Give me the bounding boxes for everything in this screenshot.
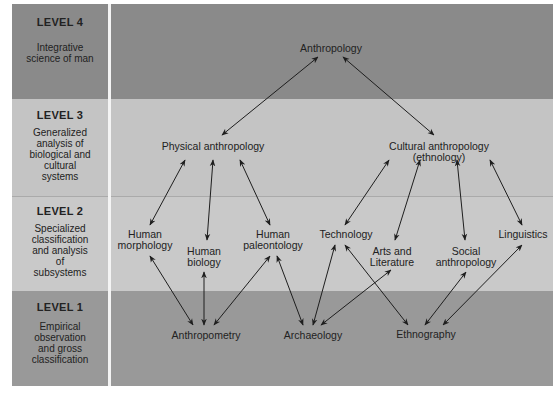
- node-archaeology: Archaeology: [284, 330, 342, 341]
- edge-paleontology-archaeology: [277, 256, 303, 325]
- node-human-morphology: Human morphology: [118, 229, 173, 251]
- node-technology: Technology: [319, 229, 372, 240]
- edge-arts-archaeology: [321, 270, 391, 325]
- node-human-paleontology: Human paleontology: [243, 229, 303, 251]
- node-human-biology: Human biology: [187, 246, 221, 268]
- edge-physical-morphology: [150, 160, 185, 225]
- edge-technology-archaeology: [313, 245, 335, 325]
- edge-physical-biology: [207, 160, 213, 240]
- node-social-anthropology: Social anthropology: [436, 246, 497, 268]
- edge-social-ethnography: [425, 272, 466, 325]
- edge-physical-paleontology: [240, 160, 270, 225]
- node-arts-and-literature: Arts and Literature: [370, 246, 414, 268]
- edge-paleontology-anthropometry: [214, 256, 270, 325]
- node-cultural-anthropology: Cultural anthropology (ethnology): [379, 141, 499, 163]
- node-physical-anthropology: Physical anthropology: [162, 141, 265, 152]
- edge-cultural-arts: [395, 160, 420, 240]
- edge-anthropology-cultural: [343, 57, 434, 135]
- node-linguistics: Linguistics: [498, 229, 547, 240]
- arrows-layer: [0, 0, 559, 394]
- node-anthropology: Anthropology: [300, 43, 362, 54]
- node-anthropometry: Anthropometry: [172, 330, 241, 341]
- edge-cultural-social: [457, 160, 465, 240]
- edge-cultural-linguistics: [490, 160, 522, 225]
- edge-anthropology-physical: [222, 57, 318, 135]
- edge-cultural-technology: [345, 160, 389, 225]
- node-ethnography: Ethnography: [396, 329, 456, 340]
